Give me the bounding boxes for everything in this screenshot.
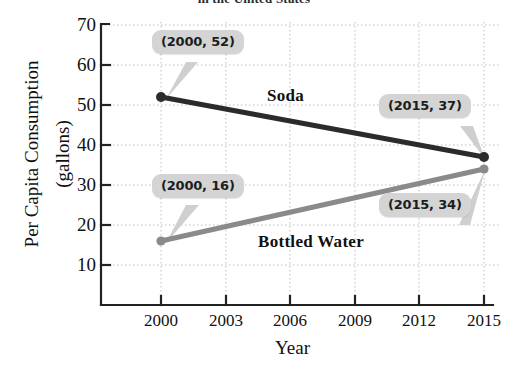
y-tick-label-50: 50 [50, 95, 96, 114]
chart-figure: in the United States [0, 0, 508, 375]
y-tick-label-30: 30 [50, 175, 96, 194]
y-tick-marks [101, 65, 110, 265]
grid-horizontal [101, 25, 500, 265]
x-tick-label-2003: 2003 [193, 312, 259, 329]
y-tick-label-40: 40 [50, 135, 96, 154]
x-tick-label-2000: 2000 [128, 312, 194, 329]
tail-soda-2000 [166, 62, 198, 99]
y-tick-label-60: 60 [50, 55, 96, 74]
callout-water-2000: (2000, 16) [152, 174, 244, 198]
x-tick-label-2009: 2009 [322, 312, 388, 329]
y-axis-title: Per Capita Consumption [21, 29, 43, 279]
series-label-bottled-water: Bottled Water [258, 232, 364, 252]
y-tick-label-10: 10 [50, 255, 96, 274]
x-tick-label-2015: 2015 [451, 312, 508, 329]
x-tick-label-2012: 2012 [386, 312, 452, 329]
x-tick-marks [161, 296, 484, 305]
callout-water-2015: (2015, 34) [379, 193, 471, 217]
axis-lines [101, 24, 493, 305]
series-label-soda: Soda [267, 86, 304, 106]
callout-soda-2015: (2015, 37) [379, 94, 471, 118]
callout-soda-2000: (2000, 52) [152, 30, 244, 54]
y-tick-label-70: 70 [50, 15, 96, 34]
x-tick-label-2006: 2006 [257, 312, 323, 329]
grid-vertical [161, 22, 484, 305]
y-tick-label-20: 20 [50, 215, 96, 234]
x-axis-title: Year [101, 337, 484, 359]
